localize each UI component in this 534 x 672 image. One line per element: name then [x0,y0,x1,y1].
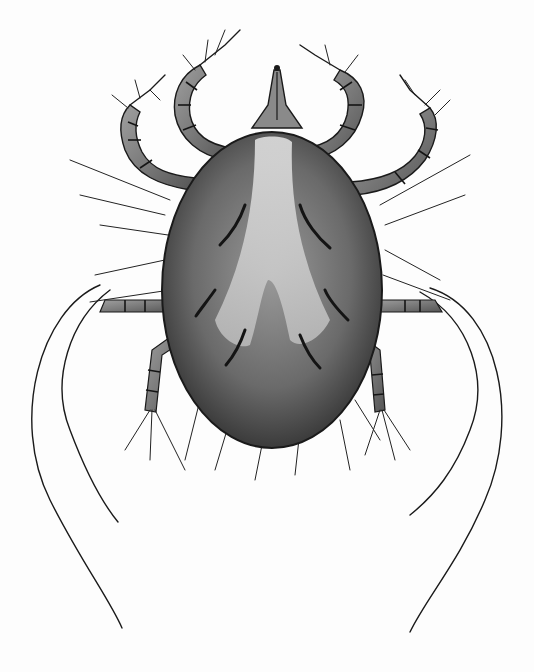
mite-body [162,132,382,448]
mouthparts [252,65,302,128]
mite-illustration [0,0,534,672]
front-leg-right-outer [350,75,450,195]
mite-drawing [0,0,534,672]
front-leg-left-inner [174,30,240,160]
